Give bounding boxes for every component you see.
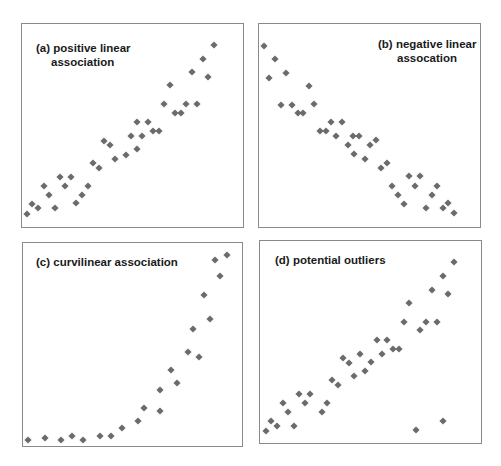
data-point-diamond <box>433 318 440 325</box>
data-point-diamond <box>166 81 173 88</box>
data-point-diamond <box>177 109 184 116</box>
data-point-diamond <box>301 399 308 406</box>
data-point-diamond <box>428 286 435 293</box>
data-point-diamond <box>173 379 180 386</box>
data-point-diamond <box>318 408 325 415</box>
data-point-diamond <box>204 73 211 80</box>
data-point-diamond <box>377 164 384 171</box>
data-point-diamond <box>355 132 362 139</box>
data-point-diamond <box>279 399 286 406</box>
data-point-diamond <box>400 318 407 325</box>
data-point-diamond <box>267 417 274 424</box>
data-point-diamond <box>211 256 218 263</box>
data-point-diamond <box>350 150 357 157</box>
data-point-diamond <box>277 101 284 108</box>
data-point-diamond <box>133 145 140 152</box>
data-point-diamond <box>339 354 346 361</box>
data-point-diamond <box>68 432 75 439</box>
data-point-diamond <box>373 336 380 343</box>
data-point-diamond <box>188 68 195 75</box>
data-point-diamond <box>444 290 451 297</box>
data-point-diamond <box>416 326 423 333</box>
data-point-diamond <box>350 372 357 379</box>
data-point-diamond <box>24 436 31 443</box>
scatter-markers-layer <box>0 0 501 466</box>
data-point-diamond <box>95 164 102 171</box>
data-point-diamond <box>160 100 167 107</box>
data-point-diamond <box>400 200 407 207</box>
data-point-diamond <box>332 132 339 139</box>
data-point-diamond <box>271 55 278 62</box>
data-point-diamond <box>395 345 402 352</box>
data-point-diamond <box>193 100 200 107</box>
data-point-diamond <box>45 191 52 198</box>
data-point-diamond <box>195 353 202 360</box>
data-point-diamond <box>388 182 395 189</box>
data-point-diamond <box>28 200 35 207</box>
data-point-diamond <box>223 251 230 258</box>
data-point-diamond <box>61 182 68 189</box>
data-point-diamond <box>265 74 272 81</box>
data-point-diamond <box>305 82 312 89</box>
data-point-diamond <box>23 210 30 217</box>
data-point-diamond <box>111 155 118 162</box>
data-point-diamond <box>206 315 213 322</box>
data-point-diamond <box>361 155 368 162</box>
data-point-diamond <box>310 100 317 107</box>
data-point-diamond <box>200 291 207 298</box>
data-point-diamond <box>184 348 191 355</box>
data-point-diamond <box>89 159 96 166</box>
data-point-diamond <box>422 204 429 211</box>
data-point-diamond <box>260 42 267 49</box>
data-point-diamond <box>167 366 174 373</box>
data-point-diamond <box>122 151 129 158</box>
data-point-diamond <box>138 132 145 139</box>
data-point-diamond <box>57 436 64 443</box>
data-point-diamond <box>306 390 313 397</box>
data-point-diamond <box>450 258 457 265</box>
data-point-diamond <box>273 422 280 429</box>
panel-c-points <box>24 251 230 443</box>
data-point-diamond <box>140 404 147 411</box>
data-point-diamond <box>366 141 373 148</box>
data-point-diamond <box>262 427 269 434</box>
data-point-diamond <box>328 376 335 383</box>
data-point-diamond <box>156 386 163 393</box>
data-point-diamond <box>40 182 47 189</box>
data-point-diamond <box>118 424 125 431</box>
data-point-diamond <box>322 127 329 134</box>
panel-d-points <box>262 258 457 434</box>
data-point-diamond <box>284 408 291 415</box>
data-point-diamond <box>79 436 86 443</box>
data-point-diamond <box>216 272 223 279</box>
data-point-diamond <box>327 118 334 125</box>
data-point-diamond <box>422 318 429 325</box>
data-point-diamond <box>334 381 341 388</box>
data-point-diamond <box>182 100 189 107</box>
data-point-diamond <box>439 417 446 424</box>
data-point-diamond <box>127 132 134 139</box>
data-point-diamond <box>34 204 41 211</box>
data-point-diamond <box>428 191 435 198</box>
data-point-diamond <box>155 127 162 134</box>
data-point-diamond <box>41 434 48 441</box>
data-point-diamond <box>288 101 295 108</box>
data-point-diamond <box>56 173 63 180</box>
data-point-diamond <box>144 118 151 125</box>
data-point-diamond <box>356 350 363 357</box>
data-point-diamond <box>405 172 412 179</box>
data-point-diamond <box>361 367 368 374</box>
data-point-diamond <box>345 359 352 366</box>
data-point-diamond <box>72 199 79 206</box>
data-point-diamond <box>156 407 163 414</box>
data-point-diamond <box>295 390 302 397</box>
data-point-diamond <box>412 426 419 433</box>
data-point-diamond <box>133 118 140 125</box>
data-point-diamond <box>106 141 113 148</box>
data-point-diamond <box>439 204 446 211</box>
data-point-diamond <box>134 417 141 424</box>
data-point-diamond <box>338 118 345 125</box>
data-point-diamond <box>189 325 196 332</box>
data-point-diamond <box>96 432 103 439</box>
panel-a-points <box>23 41 217 217</box>
